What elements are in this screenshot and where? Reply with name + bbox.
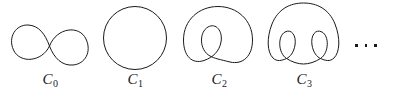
figure-canvas: C0 C1 C2 C3 bbox=[0, 0, 394, 98]
path-circle bbox=[104, 7, 167, 70]
curve-label-c1: C1 bbox=[96, 72, 174, 87]
curve-label-sub-c1: 1 bbox=[138, 78, 143, 89]
curve-panel-c2: C2 bbox=[180, 0, 258, 98]
curve-label-base-c3: C bbox=[296, 71, 306, 87]
curve-circle-c1 bbox=[96, 0, 174, 70]
curve-label-base-c0: C bbox=[42, 71, 52, 87]
curve-label-c0: C0 bbox=[6, 72, 94, 87]
curve-limacon-two-loops-c3 bbox=[264, 0, 344, 70]
ellipsis-indicator bbox=[355, 44, 377, 47]
ellipsis-dot bbox=[355, 44, 358, 47]
curve-label-sub-c3: 3 bbox=[307, 78, 312, 89]
curve-label-c3: C3 bbox=[264, 72, 344, 87]
curve-panel-c3: C3 bbox=[264, 0, 344, 98]
curve-label-base-c2: C bbox=[211, 71, 221, 87]
curve-label-sub-c0: 0 bbox=[53, 78, 58, 89]
curve-limacon-one-loop-c2 bbox=[180, 0, 258, 70]
path-limacon-2 bbox=[268, 3, 339, 64]
curve-panel-c0: C0 bbox=[6, 0, 94, 98]
curve-panel-c1: C1 bbox=[96, 0, 174, 98]
curve-figure-eight-c0 bbox=[6, 0, 94, 70]
path-lemniscate bbox=[12, 25, 89, 65]
path-limacon-1 bbox=[184, 7, 253, 63]
curve-label-c2: C2 bbox=[180, 72, 258, 87]
curve-label-sub-c2: 2 bbox=[222, 78, 227, 89]
ellipsis-dot bbox=[374, 44, 377, 47]
curve-label-base-c1: C bbox=[127, 71, 137, 87]
ellipsis-dot bbox=[365, 44, 368, 47]
